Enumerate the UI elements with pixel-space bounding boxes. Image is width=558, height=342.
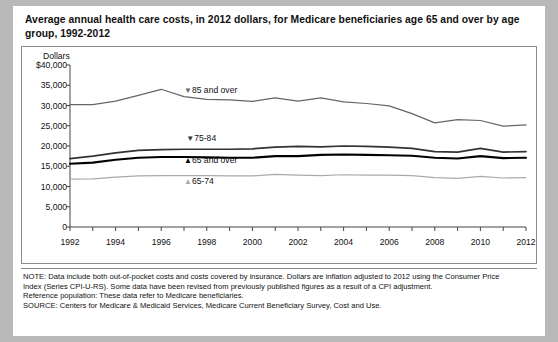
plot-area: Dollars $40,00035,00030,00025,00020,0001… — [21, 46, 537, 264]
figure-panel: Average annual health care costs, in 201… — [13, 6, 545, 336]
note-line: SOURCE: Centers for Medicare & Medicaid … — [21, 301, 537, 311]
note-line: NOTE: Data include both out-of-pocket co… — [21, 272, 537, 282]
chart-title: Average annual health care costs, in 201… — [13, 6, 545, 41]
note-line: Reference population: These data refer t… — [21, 291, 537, 301]
chart-canvas — [22, 47, 536, 263]
note-line: Index (Series CPI-U-RS). Some data have … — [21, 282, 537, 292]
footnotes: NOTE: Data include both out-of-pocket co… — [21, 268, 537, 310]
chart-title-line-1: Average annual health care costs, in 201… — [25, 14, 484, 25]
